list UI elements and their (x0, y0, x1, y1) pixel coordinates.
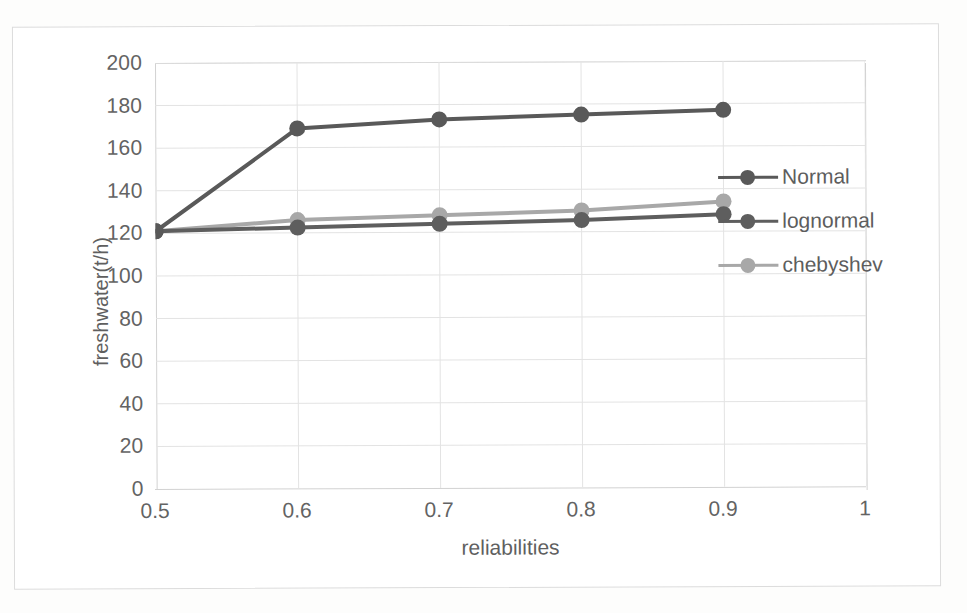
y-tick-label: 0 (132, 478, 144, 499)
data-point-marker (290, 219, 306, 235)
data-point-marker (432, 216, 448, 232)
gridline-horizontal (156, 358, 866, 361)
legend-dot (740, 170, 755, 185)
legend-label: lognormal (778, 208, 874, 232)
legend-item-lognormal[interactable]: lognormal (718, 198, 893, 243)
legend-marker-icon (718, 257, 778, 273)
x-tick-label: 1 (859, 497, 871, 518)
gridline-horizontal (155, 60, 865, 63)
legend-item-chebyshev[interactable]: chebyshev (718, 242, 893, 287)
legend-marker-icon (718, 169, 778, 185)
legend-label: Normal (778, 164, 850, 188)
y-tick-label: 80 (119, 307, 143, 328)
y-tick-label: 200 (106, 52, 142, 73)
x-axis-ticks: 0.50.60.70.80.91 (155, 497, 866, 534)
gridline-horizontal (156, 401, 866, 404)
legend-dot (740, 258, 755, 273)
legend-item-normal[interactable]: Normal (718, 154, 893, 199)
y-tick-label: 40 (120, 392, 144, 413)
gridline-horizontal (156, 316, 866, 319)
data-point-marker (573, 107, 589, 123)
x-tick-label: 0.7 (424, 499, 453, 520)
legend-label: chebyshev (778, 252, 882, 276)
x-axis-title: reliabilities (155, 534, 866, 561)
y-tick-label: 180 (106, 94, 142, 115)
y-axis-title: freshwater(t/h) (90, 137, 113, 467)
gridline-horizontal (155, 145, 865, 148)
data-point-marker (574, 212, 590, 228)
legend-dot (740, 214, 755, 229)
data-point-marker (715, 102, 731, 118)
data-point-marker (289, 120, 305, 136)
y-tick-label: 60 (119, 350, 143, 371)
line-chart: 020406080100120140160180200 0.50.60.70.8… (0, 0, 967, 613)
y-axis-title-wrapper: freshwater(t/h) (56, 80, 86, 410)
gridline-horizontal (155, 103, 865, 106)
data-point-marker (431, 111, 447, 127)
legend-marker-icon (718, 213, 778, 229)
chart-legend: Normallognormalchebyshev (718, 154, 894, 287)
x-tick-label: 0.8 (566, 498, 595, 519)
x-tick-label: 0.6 (282, 499, 311, 520)
x-tick-label: 0.9 (708, 498, 737, 519)
x-tick-label: 0.5 (140, 500, 169, 521)
gridline-horizontal (156, 444, 866, 447)
y-tick-label: 20 (120, 435, 144, 456)
